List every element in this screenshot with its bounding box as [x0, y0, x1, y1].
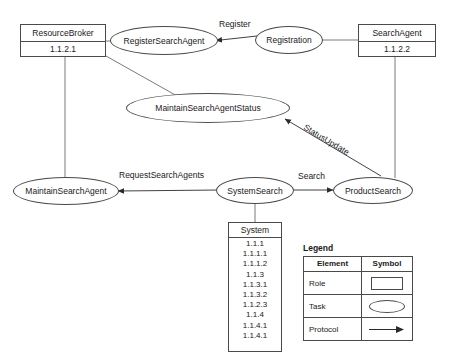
legend-row-task: Task: [304, 295, 413, 318]
task-registration[interactable]: Registration: [255, 26, 323, 54]
system-box-item: 1.1.1: [229, 239, 281, 249]
task-maintainsearchagent[interactable]: MaintainSearchAgent: [13, 177, 119, 205]
legend-row-protocol: Protocol: [304, 318, 413, 341]
legend-row-role: Role: [304, 272, 413, 295]
rectangle-icon: [371, 277, 403, 290]
task-systemsearch[interactable]: SystemSearch: [216, 177, 294, 204]
legend-symbol-protocol-cell: [362, 318, 413, 341]
task-maintainsearchagentstatus[interactable]: MaintainSearchAgentStatus: [126, 93, 290, 123]
legend-header-element: Element: [304, 257, 362, 272]
task-registersearchagent[interactable]: RegisterSearchAgent: [110, 26, 218, 55]
system-box-item: 1.1.4: [229, 310, 281, 320]
diagram-canvas: ResourceBroker 1.1.2.1 SearchAgent 1.1.2…: [0, 0, 453, 360]
arrow-requestsearchagents: [118, 190, 219, 191]
legend-header-symbol: Symbol: [362, 257, 413, 272]
legend-symbol-task-cell: [362, 295, 413, 318]
system-box-item: 1.1.3: [229, 270, 281, 280]
role-resourcebroker-id: 1.1.2.1: [21, 42, 105, 57]
system-box-header: System: [229, 223, 281, 238]
system-box-item: 1.1.2.3: [229, 300, 281, 310]
legend-symbol-role-cell: [362, 272, 413, 295]
role-resourcebroker[interactable]: ResourceBroker 1.1.2.1: [20, 24, 106, 57]
system-box-item: 1.1.1.1: [229, 249, 281, 259]
system-box-item: 1.1.4.1: [229, 321, 281, 331]
legend: Legend Element Symbol Role Task Protocol: [303, 243, 413, 341]
role-searchagent-name: SearchAgent: [359, 25, 435, 42]
protocol-label-search: Search: [298, 171, 325, 181]
legend-title: Legend: [303, 243, 413, 253]
system-box-list: 1.1.1 1.1.1.1 1.1.1.2 1.1.3 1.1.3.1 1.1.…: [229, 238, 281, 343]
ellipse-icon: [369, 300, 405, 313]
role-searchagent-id: 1.1.2.2: [359, 42, 435, 57]
system-box-item: 1.1.3.2: [229, 290, 281, 300]
task-productsearch[interactable]: ProductSearch: [333, 177, 413, 204]
legend-label-role: Role: [304, 272, 362, 295]
role-searchagent[interactable]: SearchAgent 1.1.2.2: [358, 24, 436, 57]
system-box-item: 1.1.4.1: [229, 331, 281, 341]
protocol-label-register: Register: [219, 19, 251, 29]
system-box-item: 1.1.3.1: [229, 280, 281, 290]
legend-header-row: Element Symbol: [304, 257, 413, 272]
protocol-label-requestsearchagents: RequestSearchAgents: [119, 170, 204, 180]
arrow-icon: [368, 325, 406, 334]
system-box[interactable]: System 1.1.1 1.1.1.1 1.1.1.2 1.1.3 1.1.3…: [228, 222, 282, 352]
legend-label-task: Task: [304, 295, 362, 318]
arrow-register: [216, 36, 257, 41]
legend-label-protocol: Protocol: [304, 318, 362, 341]
system-box-item: 1.1.1.2: [229, 259, 281, 269]
role-resourcebroker-name: ResourceBroker: [21, 25, 105, 42]
legend-table: Element Symbol Role Task Protocol: [303, 256, 413, 341]
